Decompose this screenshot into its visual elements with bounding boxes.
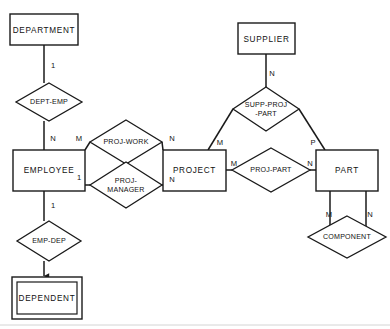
entity-group: DEPARTMENT EMPLOYEE DEPENDENT PROJECT SU… (10, 14, 378, 319)
relationship-proj-manager[interactable]: PROJ- MANAGER (90, 162, 162, 208)
cardinality-proj-manager-emp: 1 (77, 173, 81, 182)
relationship-proj-manager-label-line2: MANAGER (107, 186, 144, 194)
entity-supplier[interactable]: SUPPLIER (238, 23, 295, 54)
cardinality-proj-part-part: N (307, 159, 312, 168)
entity-employee-label: EMPLOYEE (24, 166, 75, 175)
cardinality-supp-proj-part-supp: N (269, 69, 274, 78)
cardinality-component-n: N (367, 210, 372, 219)
relationship-proj-part-label: PROJ-PART (250, 166, 292, 174)
cardinality-dept-emp-emp: N (50, 134, 55, 143)
cardinality-emp-dep-emp: 1 (51, 201, 55, 210)
relationship-component[interactable]: COMPONENT (308, 216, 386, 258)
connector-employee-projwork (85, 142, 90, 150)
relationship-dept-emp[interactable]: DEPT-EMP (16, 83, 82, 121)
cardinality-proj-work-emp: M (76, 134, 82, 143)
relationship-emp-dep-label: EMP-DEP (32, 237, 66, 245)
relationship-supp-proj-part-label-line1: SUPP-PROJ (245, 101, 288, 109)
cardinality-component-m: M (326, 210, 332, 219)
er-diagram-svg: DEPARTMENT EMPLOYEE DEPENDENT PROJECT SU… (0, 0, 390, 329)
relationship-proj-manager-label-line1: PROJ- (115, 177, 138, 185)
cardinality-supp-proj-part-part: P (310, 138, 315, 147)
cardinality-supp-proj-part-proj: M (217, 138, 223, 147)
cardinality-proj-work-proj: N (169, 134, 174, 143)
entity-dependent[interactable]: DEPENDENT (12, 277, 82, 319)
entity-department-label: DEPARTMENT (13, 26, 76, 35)
entity-part-label: PART (335, 166, 359, 175)
entity-dependent-label: DEPENDENT (19, 294, 76, 303)
entity-part[interactable]: PART (316, 150, 378, 191)
relationship-dept-emp-label: DEPT-EMP (30, 98, 68, 106)
relationship-component-label: COMPONENT (323, 233, 371, 241)
entity-project[interactable]: PROJECT (163, 150, 226, 191)
relationship-supp-proj-part-label-line2: -PART (255, 110, 277, 118)
cardinality-proj-part-proj: M (231, 159, 237, 168)
relationship-emp-dep[interactable]: EMP-DEP (17, 221, 81, 261)
entity-supplier-label: SUPPLIER (243, 35, 289, 44)
entity-project-label: PROJECT (173, 166, 216, 175)
entity-employee[interactable]: EMPLOYEE (13, 150, 85, 191)
relationship-proj-work[interactable]: PROJ-WORK (90, 120, 162, 164)
cardinality-proj-manager-proj: N (169, 175, 174, 184)
er-diagram-canvas: DEPARTMENT EMPLOYEE DEPENDENT PROJECT SU… (0, 0, 390, 329)
relationship-proj-work-label: PROJ-WORK (103, 138, 148, 146)
connector-projwork-project (162, 142, 163, 150)
relationship-proj-part[interactable]: PROJ-PART (232, 148, 310, 192)
cardinality-dept-emp-dept: 1 (51, 61, 55, 70)
entity-department[interactable]: DEPARTMENT (10, 14, 78, 45)
relationship-supp-proj-part[interactable]: SUPP-PROJ -PART (233, 87, 299, 131)
